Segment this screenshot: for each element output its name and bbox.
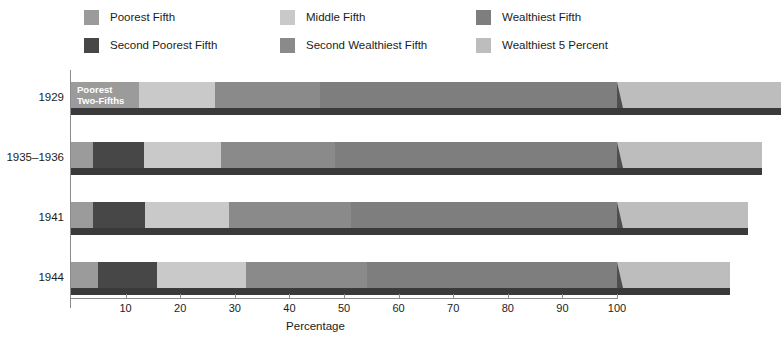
stacked-bar[interactable] [71, 202, 617, 228]
bar-shadow-segment [320, 108, 617, 115]
x-tick-label: 30 [220, 302, 250, 314]
legend-item[interactable]: Poorest Fifth [84, 8, 175, 26]
bar-shadow-segment [351, 228, 617, 235]
legend-swatch-icon [476, 38, 491, 53]
bar-group: 1944 [0, 260, 631, 300]
bar-group: 1929Poorest Two-Fifths [0, 80, 631, 120]
x-tick-mark [344, 294, 345, 299]
bar-segment[interactable] [145, 202, 229, 228]
bar-segment[interactable] [617, 262, 730, 288]
bar-shadow-segment [139, 108, 214, 115]
legend-item[interactable]: Second Poorest Fifth [84, 36, 217, 54]
legend-item[interactable]: Second Wealthiest Fifth [280, 36, 427, 54]
x-tick-label: 70 [438, 302, 468, 314]
bar-segment[interactable] [144, 142, 221, 168]
x-tick-mark [235, 294, 236, 299]
y-category-label: 1941 [0, 211, 64, 223]
legend-swatch-icon [84, 10, 99, 25]
bar-segment[interactable] [157, 262, 245, 288]
bar-segment[interactable] [93, 142, 143, 168]
bar-shadow-segment [215, 108, 320, 115]
x-tick-label: 80 [493, 302, 523, 314]
legend-item[interactable]: Wealthiest Fifth [476, 8, 581, 26]
bar-shadow-segment [617, 168, 762, 175]
bar-segment[interactable] [71, 142, 93, 168]
x-tick-mark [126, 294, 127, 299]
bar-segment[interactable] [215, 82, 320, 108]
legend-item[interactable]: Wealthiest 5 Percent [476, 36, 608, 54]
bar-segment[interactable] [93, 202, 145, 228]
bar-shadow-segment [71, 168, 93, 175]
bar-shadow-segment [93, 228, 145, 235]
bar-segment[interactable] [320, 82, 617, 108]
x-tick-mark [289, 294, 290, 299]
y-category-label-wrap: 1935–1936 [0, 140, 64, 180]
bar-shadow-segment [367, 288, 617, 295]
bar-segment[interactable] [229, 202, 351, 228]
y-category-label: 1929 [0, 91, 64, 103]
x-tick-mark [617, 294, 618, 299]
bar-shadow-segment [617, 288, 730, 295]
legend-item[interactable]: Middle Fifth [280, 8, 365, 26]
legend-item-label: Wealthiest 5 Percent [502, 38, 608, 53]
x-tick-label: 50 [329, 302, 359, 314]
bar-segment[interactable] [221, 142, 335, 168]
bar-shadow-segment [617, 228, 748, 235]
plot-area: 1929Poorest Two-Fifths1935–193619411944 [0, 66, 631, 316]
bar-segment[interactable] [617, 142, 762, 168]
y-category-label: 1944 [0, 271, 64, 283]
bar-shadow-segment [145, 228, 229, 235]
bar-shadow-segment [71, 288, 98, 295]
y-category-label-wrap: 1941 [0, 200, 64, 240]
legend-item-label: Second Poorest Fifth [110, 38, 217, 53]
bar-segment[interactable] [367, 262, 617, 288]
bar-shadow-segment [157, 288, 245, 295]
bar-segment[interactable] [617, 202, 748, 228]
bar-segment[interactable] [139, 82, 214, 108]
x-axis: 102030405060708090100 Percentage [0, 298, 631, 354]
x-tick-label: 60 [384, 302, 414, 314]
x-tick-mark [399, 294, 400, 299]
bar-segment[interactable] [351, 202, 617, 228]
x-tick-mark [508, 294, 509, 299]
bar-shadow-segment [221, 168, 335, 175]
x-tick-label: 20 [165, 302, 195, 314]
bar-segment[interactable] [335, 142, 617, 168]
bar-segment[interactable] [98, 262, 158, 288]
bar-shadow-segment [71, 108, 139, 115]
legend-item-label: Wealthiest Fifth [502, 10, 581, 25]
bar-shadow-segment [93, 168, 143, 175]
chart-legend: Poorest FifthMiddle FifthWealthiest Fift… [84, 8, 624, 56]
bar-shadow-segment [617, 108, 781, 115]
bar-group: 1935–1936 [0, 140, 631, 180]
bar-shadow-segment [71, 228, 93, 235]
bar-segment[interactable] [617, 82, 781, 108]
y-category-label: 1935–1936 [0, 151, 64, 163]
legend-item-label: Poorest Fifth [110, 10, 175, 25]
stacked-bar[interactable] [71, 262, 617, 288]
bar-segment[interactable] [71, 262, 98, 288]
legend-swatch-icon [476, 10, 491, 25]
bar-shadow-segment [335, 168, 617, 175]
legend-swatch-icon [84, 38, 99, 53]
y-category-label-wrap: 1944 [0, 260, 64, 300]
bar-shadow-segment [246, 288, 367, 295]
legend-item-label: Second Wealthiest Fifth [306, 38, 427, 53]
bar-shadow-segment [229, 228, 351, 235]
legend-swatch-icon [280, 38, 295, 53]
bar-3d-shadow [71, 108, 617, 115]
legend-swatch-icon [280, 10, 295, 25]
stacked-bar[interactable]: Poorest Two-Fifths [71, 82, 617, 108]
legend-item-label: Middle Fifth [306, 10, 365, 25]
x-tick-label: 100 [602, 302, 632, 314]
bar-segment[interactable] [246, 262, 367, 288]
x-tick-label: 10 [111, 302, 141, 314]
bar-segment[interactable]: Poorest Two-Fifths [71, 82, 139, 108]
bar-group: 1941 [0, 200, 631, 240]
bar-shadow-segment [144, 168, 221, 175]
bar-3d-shadow [71, 228, 617, 235]
bar-segment[interactable] [71, 202, 93, 228]
stacked-bar[interactable] [71, 142, 617, 168]
bar-3d-shadow [71, 168, 617, 175]
bar-segment-inline-label: Poorest Two-Fifths [77, 84, 124, 106]
